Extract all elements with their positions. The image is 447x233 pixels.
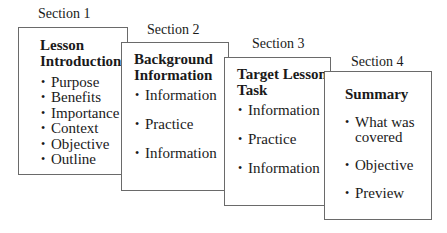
list-item: •What was covered [345,115,427,145]
list-item-text: Information [248,160,320,176]
list-item-text: Outline [51,151,96,167]
section-1-card: Lesson Introduction •Purpose •Benefits •… [18,27,128,175]
list-item-text: Practice [145,116,193,132]
list-item: •Practice [135,116,217,132]
bullet-icon: • [41,121,45,136]
bullet-icon: • [135,87,139,103]
bullet-icon: • [345,115,349,130]
section-4-title: Summary [345,86,408,102]
section-3-title-text: Target Lesson Task [237,66,329,98]
section-1-title-text: Lesson Introduction [40,37,126,69]
list-item-text: Objective [51,136,109,152]
bullet-icon: • [135,145,139,161]
section-2-card: Background Information •Information •Pra… [121,42,229,191]
list-item: •Importance [41,106,119,121]
section-2-label: Section 2 [147,22,200,38]
section-4-card: Summary •What was covered •Objective •Pr… [324,71,432,220]
list-item: •Information [135,145,217,161]
section-3-card: Target Lesson Task •Information •Practic… [224,57,331,206]
bullet-icon: • [238,160,242,176]
section-1-label: Section 1 [38,6,91,22]
bullet-icon: • [41,137,45,152]
bullet-icon: • [41,90,45,105]
list-item-text: Practice [248,131,296,147]
section-1-list: •Purpose •Benefits •Importance •Context … [41,75,119,167]
list-item-text: Information [145,145,217,161]
section-3-label: Section 3 [252,36,305,52]
list-item-text: Benefits [51,89,101,105]
bullet-icon: • [238,102,242,118]
section-2-list: •Information •Practice •Information [135,87,217,174]
list-item: •Outline [41,152,119,167]
section-3-list: •Information •Practice •Information [238,102,320,189]
bullet-icon: • [345,186,349,201]
list-item-text: Context [51,120,99,136]
list-item-text: Importance [51,105,119,121]
list-item-text: Objective [355,157,413,173]
section-4-list: •What was covered •Objective •Preview [345,115,427,214]
list-item-text: Information [248,102,320,118]
bullet-icon: • [345,158,349,173]
bullet-icon: • [41,75,45,90]
list-item-text: Information [145,87,217,103]
list-item: •Preview [345,186,427,201]
section-2-title: Background Information [134,51,224,83]
list-item: •Context [41,121,119,136]
bullet-icon: • [41,152,45,167]
section-4-label: Section 4 [351,54,404,70]
bullet-icon: • [238,131,242,147]
section-3-title: Target Lesson Task [237,66,329,98]
list-item-text: Purpose [51,74,99,90]
list-item: •Information [238,102,320,118]
list-item: •Objective [345,158,427,173]
list-item: •Information [238,160,320,176]
section-1-title: Lesson Introduction [40,37,126,69]
section-2-title-text: Background Information [134,51,224,83]
list-item: •Information [135,87,217,103]
list-item: •Objective [41,137,119,152]
list-item-text: What was covered [355,114,415,145]
list-item: •Benefits [41,90,119,105]
list-item-text: Preview [355,185,404,201]
list-item: •Purpose [41,75,119,90]
list-item: •Practice [238,131,320,147]
bullet-icon: • [135,116,139,132]
bullet-icon: • [41,106,45,121]
